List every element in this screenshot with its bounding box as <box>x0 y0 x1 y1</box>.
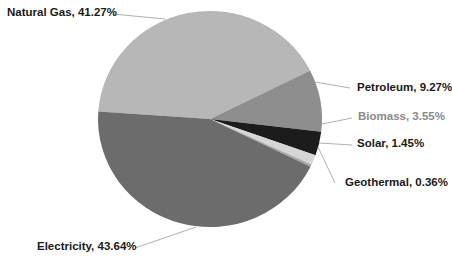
label-solar: Solar, 1.45% <box>357 137 424 149</box>
leader-natural-gas <box>113 14 165 19</box>
label-natural-gas: Natural Gas, 41.27% <box>7 6 117 18</box>
label-biomass: Biomass, 3.55% <box>358 110 445 122</box>
leader-biomass <box>322 118 352 124</box>
pie-chart <box>0 0 452 265</box>
label-petroleum: Petroleum, 9.27% <box>357 81 452 93</box>
leader-solar <box>319 143 352 145</box>
label-geothermal: Geothermal, 0.36% <box>345 176 448 188</box>
leader-petroleum <box>315 82 350 88</box>
leader-geothermal <box>318 147 335 183</box>
label-electricity: Electricity, 43.64% <box>37 240 137 252</box>
pie-slices <box>98 11 322 227</box>
leader-electricity <box>135 227 196 248</box>
